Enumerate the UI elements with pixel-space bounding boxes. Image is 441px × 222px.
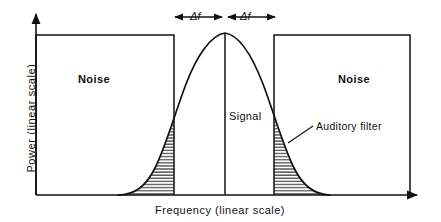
y-axis-label: Power (linear scale)	[25, 43, 37, 193]
auditory-filter-label: Auditory filter	[316, 120, 382, 132]
signal-label: Signal	[229, 110, 261, 122]
auditory-filter-leader-line	[288, 126, 313, 143]
noise-label-left: Noise	[58, 73, 130, 85]
hatched-region-right	[274, 30, 350, 195]
noise-label-right: Noise	[318, 73, 390, 85]
delta-f-label-right: Δf	[240, 10, 250, 22]
hatched-region-left	[100, 30, 174, 195]
delta-f-label-left: Δf	[190, 10, 200, 22]
x-axis-label: Frequency (linear scale)	[120, 204, 320, 216]
auditory-filter-curve	[118, 33, 330, 195]
auditory-filter-figure: Power (linear scale) Frequency (linear s…	[0, 0, 441, 222]
figure-canvas	[0, 0, 441, 222]
